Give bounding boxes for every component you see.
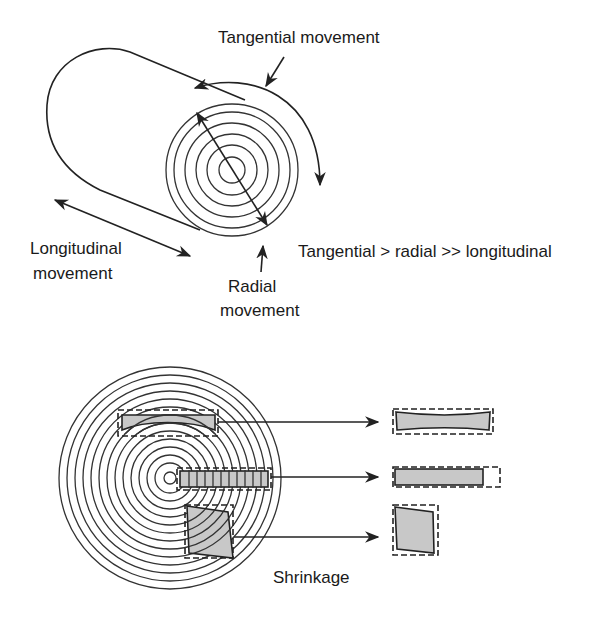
- label-longitudinal-2: movement: [33, 264, 113, 283]
- label-tangential: Tangential movement: [218, 28, 380, 47]
- quartersawn-piece: [177, 467, 500, 490]
- label-relation: Tangential > radial >> longitudinal: [298, 242, 552, 261]
- label-longitudinal-1: Longitudinal: [30, 239, 122, 258]
- label-radial-2: movement: [220, 301, 300, 320]
- tangential-pointer: [266, 57, 284, 86]
- radial-pointer: [261, 246, 263, 272]
- label-radial-1: Radial: [228, 277, 276, 296]
- wood-movement-diagram: Tangential movement Longitudinal movemen…: [0, 0, 589, 623]
- label-shrinkage: Shrinkage: [273, 568, 350, 587]
